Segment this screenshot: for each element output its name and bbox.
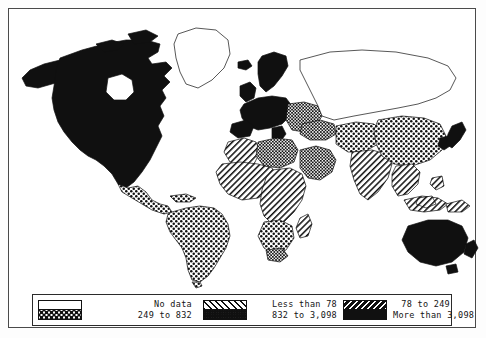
legend-swatches-1	[38, 300, 82, 320]
region-north-america	[52, 40, 172, 188]
region-scandinavia	[258, 52, 288, 92]
legend-swatch-249-to-832	[38, 310, 82, 320]
region-australia	[402, 220, 468, 266]
legend-label-less-than-78: Less than 78	[253, 299, 337, 310]
legend-group-2: Less than 78 832 to 3,098	[198, 297, 338, 323]
region-british-isles	[240, 82, 256, 102]
region-caribbean	[170, 194, 196, 202]
legend-swatch-no-data	[38, 300, 82, 310]
legend-swatches-2	[203, 300, 247, 320]
region-philippines	[430, 176, 444, 190]
region-arabia	[300, 146, 336, 180]
region-madagascar	[296, 214, 312, 238]
legend-label-more-than-3098: More than 3,098	[393, 310, 450, 321]
region-central-east-africa	[260, 168, 306, 224]
legend-swatch-832-to-3098	[203, 310, 247, 320]
region-japan	[446, 122, 466, 148]
legend-swatches-3	[343, 300, 387, 320]
region-russia	[300, 50, 456, 120]
legend-swatch-more-than-3098	[343, 310, 387, 320]
legend-swatch-78-to-249	[343, 300, 387, 310]
region-southeast-asia	[392, 164, 420, 196]
legend-swatch-less-than-78	[203, 300, 247, 310]
legend-labels-1: No data 249 to 832	[88, 299, 192, 321]
region-new-guinea	[446, 200, 470, 212]
legend-label-832-to-3098: 832 to 3,098	[253, 310, 337, 321]
region-patagonia-tip	[192, 282, 202, 288]
region-south-america	[166, 206, 230, 282]
legend-label-no-data: No data	[88, 299, 192, 310]
legend-label-78-to-249: 78 to 249	[393, 299, 450, 310]
region-iceland	[238, 60, 252, 70]
legend-label-249-to-832: 249 to 832	[88, 310, 192, 321]
world-map	[0, 0, 486, 338]
region-north-africa	[256, 138, 298, 168]
region-turkey	[300, 120, 336, 140]
region-tasmania	[446, 264, 458, 274]
legend-group-3: 78 to 249 More than 3,098	[338, 297, 451, 323]
map-legend: No data 249 to 832 Less than 78 832 to 3…	[32, 294, 452, 326]
legend-labels-2: Less than 78 832 to 3,098	[253, 299, 337, 321]
world-choropleth-figure: No data 249 to 832 Less than 78 832 to 3…	[0, 0, 486, 338]
region-greenland	[174, 28, 230, 88]
legend-labels-3: 78 to 249 More than 3,098	[393, 299, 450, 321]
region-mexico	[118, 184, 172, 214]
legend-group-1: No data 249 to 832	[33, 297, 198, 323]
